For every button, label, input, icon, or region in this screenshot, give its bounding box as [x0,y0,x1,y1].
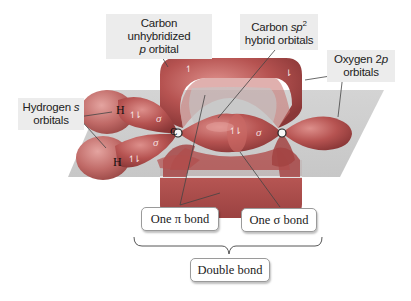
label-oxygen-2p-orbitals: Oxygen 2p orbitals [327,50,395,82]
label-text: Carbon [251,21,291,33]
label-hydrogen-s-orbitals: Hydrogen s orbitals [18,98,84,130]
label-carbon-p-orbital: Carbon unhybridized p orbital [106,14,212,59]
atom-carbon: C [170,125,177,137]
box-sigma-bond: One σ bond [241,208,317,232]
label-text: Oxygen 2 [334,53,382,65]
oxygen-nucleus [278,129,286,137]
atom-hydrogen-top: H [116,103,125,118]
spin-pair-icon: ↿⇂ [129,110,140,120]
label-text: Hydrogen [23,101,74,113]
label-text: sp [291,21,303,33]
label-carbon-sp2-orbitals: Carbon sp2 hybrid orbitals [240,14,318,50]
spin-pair-icon: ↿⇂ [229,126,240,136]
spin-pair-icon: ↿⇂ [128,154,139,164]
label-text: 2 [303,19,307,28]
diagram-stage: ↿ ⇂ ↿⇂ ↿⇂ ↿⇂ σ σ σ H H C Carbon unhybrid… [0,0,411,301]
sigma-symbol: σ [153,136,158,148]
box-pi-bond: One π bond [141,207,219,231]
spin-up-icon: ↿ [185,64,191,74]
label-text: orbital [146,43,179,55]
label-text: orbitals [343,66,378,78]
label-text: Carbon unhybridized [128,17,191,42]
atom-hydrogen-bottom: H [113,155,122,170]
label-text: orbitals [33,114,68,126]
label-text: p [382,53,388,65]
sigma-symbol: σ [256,126,261,138]
label-text: s [74,101,80,113]
label-text: hybrid orbitals [245,34,314,46]
box-double-bond: Double bond [190,258,270,282]
sigma-symbol: σ [156,112,161,124]
curly-brace [134,237,322,254]
spin-down-icon: ⇂ [285,68,291,78]
